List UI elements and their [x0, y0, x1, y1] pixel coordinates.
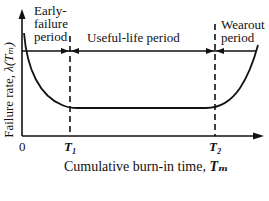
x-axis-label: Cumulative burn-in time, Tₘ: [64, 160, 228, 173]
origin-label: 0: [19, 140, 26, 153]
early-failure-label: Early- failure period: [34, 4, 68, 43]
arrow-left-icon: [71, 48, 79, 54]
arrow-right-icon: [206, 48, 214, 54]
arrow-right-icon: [61, 48, 69, 54]
x-axis-label-text: Cumulative burn-in time,: [64, 159, 206, 174]
x-axis-label-symbol: Tₘ: [209, 159, 228, 174]
wearout-line2: period: [221, 31, 265, 44]
t2-tick-label: T₂: [209, 140, 221, 153]
x-axis-arrow-icon: [253, 133, 264, 140]
y-axis-label-text: Failure rate,: [1, 72, 16, 138]
wearout-label: Wearout period: [221, 18, 265, 44]
early-failure-line3: period: [34, 30, 68, 43]
t1-tick-label: T₁: [64, 140, 76, 153]
y-axis-label: Failure rate, λ(Tₘ): [1, 30, 17, 150]
arrow-left-icon: [216, 48, 224, 54]
y-axis-label-symbol: λ(Tₘ): [1, 42, 16, 72]
useful-life-label: Useful-life period: [87, 31, 180, 44]
y-axis-arrow-icon: [19, 9, 26, 19]
